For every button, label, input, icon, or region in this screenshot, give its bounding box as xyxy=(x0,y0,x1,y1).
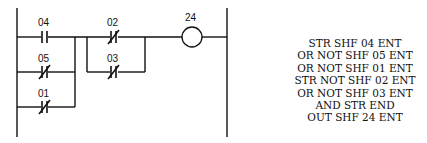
mnemonic-line: OR NOT SHF 01 ENT xyxy=(285,62,425,74)
contact-01-label: 01 xyxy=(38,88,50,99)
contact-04-no-icon xyxy=(42,31,47,43)
contact-03-label: 03 xyxy=(107,53,119,64)
mnemonic-line: OR NOT SHF 03 ENT xyxy=(285,87,425,99)
contact-02-label: 02 xyxy=(107,17,119,28)
coil-24-icon xyxy=(182,27,202,47)
contact-04-label: 04 xyxy=(38,17,50,28)
ladder-diagram: 04 05 01 02 03 24 xyxy=(0,0,240,143)
mnemonic-line: STR SHF 04 ENT xyxy=(285,37,425,49)
coil-24-label: 24 xyxy=(185,12,197,23)
contact-05-label: 05 xyxy=(38,53,50,64)
mnemonic-line: OUT SHF 24 ENT xyxy=(285,111,425,123)
mnemonic-line: OR NOT SHF 05 ENT xyxy=(285,49,425,61)
mnemonic-line: STR NOT SHF 02 ENT xyxy=(285,74,425,86)
mnemonic-line: AND STR END xyxy=(285,99,425,111)
mnemonic-program-listing: STR SHF 04 ENT OR NOT SHF 05 ENT OR NOT … xyxy=(285,37,425,124)
